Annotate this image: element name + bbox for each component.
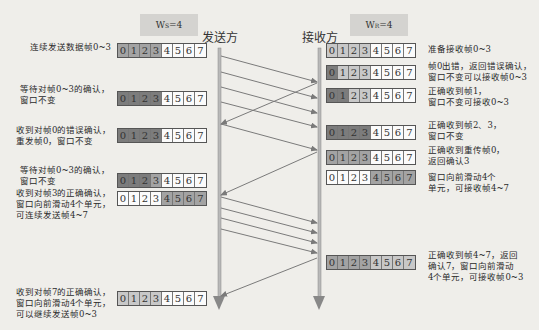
message-arrow-frame-2 — [221, 87, 317, 113]
message-arrow-nak-0 — [221, 83, 317, 124]
message-arrow-resend-frame-0 — [221, 124, 317, 150]
message-arrow-frame-4 — [221, 197, 317, 223]
message-arrow-frame-3 — [221, 102, 317, 127]
sender-timeline-arrowhead — [213, 296, 225, 310]
message-arrow-frame-7 — [221, 229, 317, 253]
message-arrow-ack-3 — [221, 152, 317, 195]
message-arrow-frame-1 — [221, 72, 317, 98]
message-arrow-frame-6 — [221, 218, 317, 243]
message-arrow-frame-0 — [221, 56, 317, 82]
receiver-timeline — [318, 48, 321, 300]
sender-timeline — [218, 48, 221, 300]
receiver-timeline-arrowhead — [313, 296, 325, 310]
message-arrow-frame-5 — [221, 208, 317, 233]
sequence-arrows — [0, 0, 539, 330]
message-arrow-ack-7 — [221, 258, 317, 296]
